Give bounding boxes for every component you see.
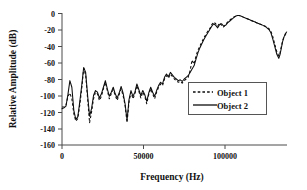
y-tick-label: -40 [44,43,55,52]
y-tick-label: 0 [51,10,55,19]
x-axis-ticks [62,145,225,149]
y-axis-ticks [58,14,62,146]
legend-label-object-2: Object 2 [217,101,248,111]
frequency-response-chart: 0 -20 -40 -60 -80 -100 -120 -140 -160 0 … [0,0,307,190]
y-tick-label: -60 [44,59,55,68]
x-axis-tick-labels: 0 50000 100000 [60,152,237,161]
x-tick-label: 0 [60,152,64,161]
y-tick-label: -140 [40,125,55,134]
y-tick-label: -120 [40,109,55,118]
y-tick-label: -160 [40,141,55,150]
y-tick-label: -20 [44,26,55,35]
x-tick-label: 100000 [213,152,237,161]
chart-legend: Object 1 Object 2 [189,83,267,115]
y-tick-label: -80 [44,76,55,85]
y-axis-title: Relative Amplitude (dB) [8,30,19,129]
y-axis-tick-labels: 0 -20 -40 -60 -80 -100 -120 -140 -160 [40,10,55,151]
legend-label-object-1: Object 1 [217,88,248,98]
chart-figure: 0 -20 -40 -60 -80 -100 -120 -140 -160 0 … [0,0,307,190]
x-tick-label: 50000 [134,152,154,161]
y-tick-label: -100 [40,92,55,101]
x-axis-title: Frequency (Hz) [140,172,203,183]
